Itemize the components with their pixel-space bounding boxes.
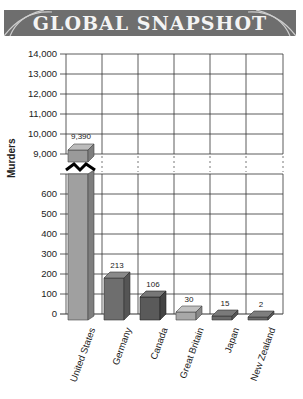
axis-break-dashes [102, 156, 283, 172]
value-label-japan: 15 [210, 299, 240, 308]
y-tick: 9,000 [0, 148, 57, 159]
y-tick: 12,000 [0, 88, 57, 99]
y-tick: 300 [0, 248, 57, 259]
y-tick: 200 [0, 268, 57, 279]
y-tick: 600 [0, 188, 57, 199]
y-tick: 500 [0, 208, 57, 219]
bar-chart [0, 0, 303, 399]
y-tick: 0 [0, 308, 57, 319]
bar-canada [140, 291, 166, 320]
y-tick: 13,000 [0, 68, 57, 79]
value-label-great-britain: 30 [174, 295, 204, 304]
bar-japan [212, 310, 238, 320]
y-tick: 400 [0, 228, 57, 239]
bar-great-britain [176, 306, 202, 320]
break-marker-icon [66, 164, 95, 170]
bar-united-states [66, 144, 95, 320]
y-tick: 11,000 [0, 108, 57, 119]
y-tick: 10,000 [0, 128, 57, 139]
value-label-canada: 106 [138, 280, 168, 289]
value-label-united-states: 9,390 [66, 132, 96, 141]
bar-germany [104, 272, 130, 320]
bar-new-zealand [248, 311, 274, 320]
value-label-germany: 213 [102, 261, 132, 270]
y-tick: 100 [0, 288, 57, 299]
y-tick: 14,000 [0, 48, 57, 59]
value-label-new-zealand: 2 [246, 300, 276, 309]
